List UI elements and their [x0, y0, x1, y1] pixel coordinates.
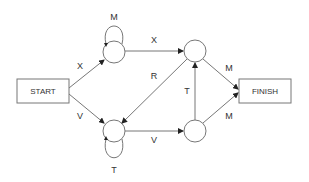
edge-start-to-s2: V: [69, 94, 104, 123]
finish-node: FINISH: [239, 79, 291, 103]
state-node-top-right: [184, 40, 206, 62]
state-diagram: START FINISH X V M T X V: [0, 0, 309, 182]
edge-s3-to-finish: M: [203, 59, 238, 89]
edge-s4-to-finish: M: [203, 93, 238, 123]
edge-s3-to-s2: R: [122, 59, 187, 123]
edge-label: M: [225, 63, 233, 73]
edge-label: V: [77, 111, 83, 121]
edge-label: X: [77, 61, 83, 71]
edge-s2-to-s4: V: [125, 131, 183, 145]
edge-start-to-s1: X: [69, 60, 104, 88]
edge-label: V: [151, 135, 157, 145]
edge-label: R: [151, 71, 158, 81]
edge-label: T: [111, 165, 117, 175]
edge-label: X: [151, 35, 157, 45]
start-node: START: [17, 79, 69, 103]
edge-label: M: [225, 111, 233, 121]
edge-s1-to-s3: X: [125, 35, 183, 51]
edge-label: M: [110, 12, 118, 22]
finish-label: FINISH: [252, 87, 278, 96]
state-node-bottom-right: [184, 120, 206, 142]
edge-s4-to-s3: T: [184, 63, 195, 120]
start-label: START: [30, 87, 56, 96]
edge-label: T: [184, 86, 190, 96]
